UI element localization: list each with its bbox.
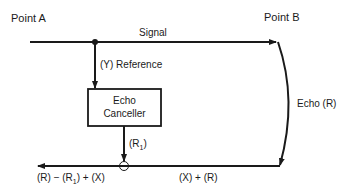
r1-text: (R — [129, 138, 140, 149]
output-label: (R) − (R1) + (X) — [37, 173, 105, 185]
box-line-1: Echo — [88, 94, 161, 107]
return-label: (X) + (R) — [179, 173, 218, 183]
output-text-1: (R) − (R — [37, 172, 73, 183]
reference-label: (Y) Reference — [100, 60, 162, 70]
point-b-label: Point B — [264, 12, 299, 23]
box-line-2: Canceller — [88, 107, 161, 120]
echo-label: Echo (R) — [297, 99, 336, 109]
echo-path — [278, 42, 289, 165]
r1-close: ) — [143, 138, 146, 149]
point-a-label: Point A — [11, 13, 46, 24]
r1-label: (R1) — [129, 139, 147, 151]
diagram-canvas — [0, 0, 352, 193]
output-text-2: ) + (X) — [77, 172, 105, 183]
signal-label: Signal — [139, 28, 167, 38]
echo-canceller-label: Echo Canceller — [88, 94, 161, 120]
